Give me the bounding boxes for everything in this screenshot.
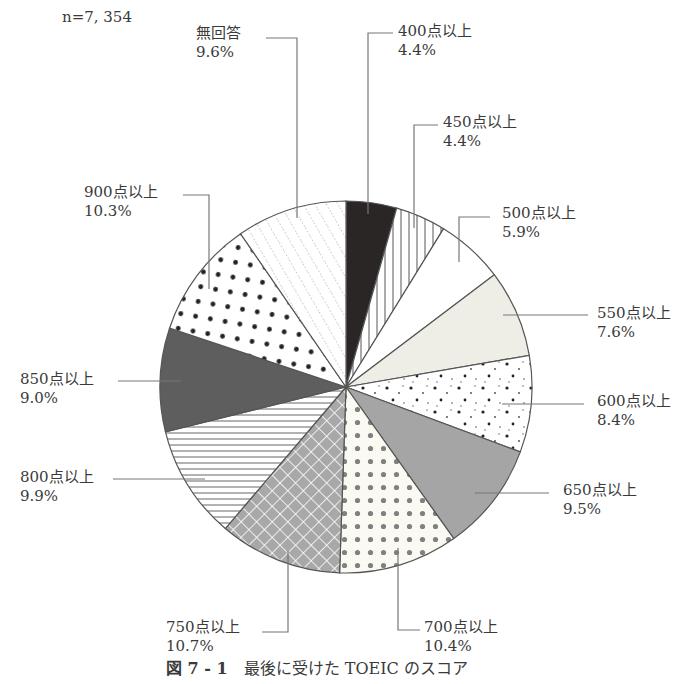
pie-chart [0,0,696,684]
label-no-answer: 無回答9.6% [196,24,241,62]
label-650: 650点以上9.5% [563,481,637,519]
figure-title: 最後に受けた TOEIC のスコア [244,659,468,678]
sample-size-note: n=7, 354 [62,8,132,26]
leader-450 [414,125,438,228]
label-900: 900点以上10.3% [84,183,158,221]
figure-caption: 図 7 - 1最後に受けた TOEIC のスコア [166,655,468,679]
label-450: 450点以上4.4% [443,113,517,151]
pie-slices [160,201,532,573]
label-850: 850点以上9.0% [20,370,94,408]
leader-no-answer [266,38,297,218]
label-500: 500点以上5.9% [502,204,576,242]
leader-750 [262,551,288,632]
label-750: 750点以上10.7% [166,618,240,656]
figure-number: 図 7 - 1 [166,659,228,678]
label-400: 400点以上4.4% [398,22,472,60]
leader-400 [368,33,393,214]
label-600: 600点以上8.4% [597,392,671,430]
label-700: 700点以上10.4% [424,618,498,656]
label-800: 800点以上9.9% [20,468,94,506]
label-550: 550点以上7.6% [597,304,671,342]
